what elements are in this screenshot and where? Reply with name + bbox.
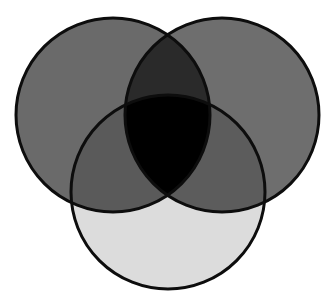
venn-diagram-figure xyxy=(0,0,335,304)
venn-diagram-canvas xyxy=(0,0,335,304)
